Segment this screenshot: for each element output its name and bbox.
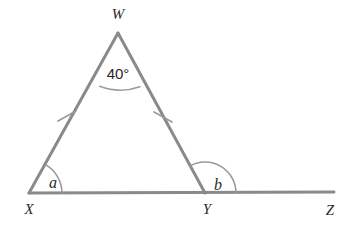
vertex-label-x: X: [23, 201, 34, 217]
vertex-label-w: W: [112, 6, 126, 22]
angle-label-a: a: [49, 174, 57, 191]
diagram-background: [0, 0, 351, 237]
angle-label-b: b: [214, 176, 222, 193]
segment-xz: [29, 192, 334, 193]
angle-label-w-40-degrees: 40°: [107, 65, 130, 82]
geometry-diagram: W X Y Z 40° a b: [0, 0, 351, 237]
geometry-canvas: W X Y Z 40° a b: [0, 0, 351, 237]
vertex-label-z: Z: [326, 202, 335, 218]
